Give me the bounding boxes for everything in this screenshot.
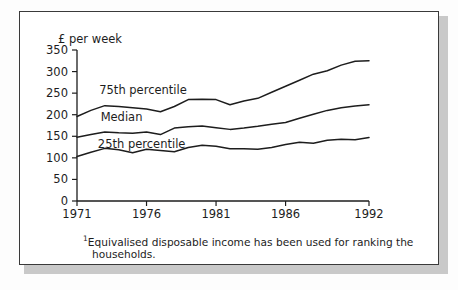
x-tick-label: 1992 [354, 207, 383, 221]
chart-footnote: 1Equivalised disposable income has been … [83, 233, 423, 261]
income-percentiles-line-chart: £ per week 050100150200250300350 1971197… [20, 12, 440, 266]
y-tick-label: 100 [46, 151, 68, 165]
x-axis-ticks: 19711976198119861992 [62, 201, 383, 221]
series-label-median: Median [101, 110, 143, 124]
y-axis-ticks: 050100150200250300350 [46, 43, 77, 208]
series-label-75th-percentile: 75th percentile [99, 83, 187, 97]
figure-root: £ per week 050100150200250300350 1971197… [0, 0, 458, 290]
x-tick-label: 1976 [132, 207, 161, 221]
series-annotations: 75th percentileMedian25th percentile [98, 83, 187, 150]
footnote-line-1: Equivalised disposable income has been u… [88, 236, 414, 248]
y-tick-label: 200 [46, 108, 68, 122]
y-tick-label: 250 [46, 86, 68, 100]
y-tick-label: 350 [46, 43, 68, 57]
footnote-line-2: households. [83, 248, 423, 261]
x-tick-label: 1986 [271, 207, 300, 221]
y-tick-label: 300 [46, 65, 68, 79]
y-tick-label: 0 [61, 194, 68, 208]
series-label-25th-percentile: 25th percentile [98, 137, 186, 151]
figure-frame: £ per week 050100150200250300350 1971197… [19, 11, 439, 265]
y-tick-label: 150 [46, 129, 68, 143]
y-tick-label: 50 [53, 172, 68, 186]
x-tick-label: 1971 [62, 207, 91, 221]
x-tick-label: 1981 [201, 207, 230, 221]
